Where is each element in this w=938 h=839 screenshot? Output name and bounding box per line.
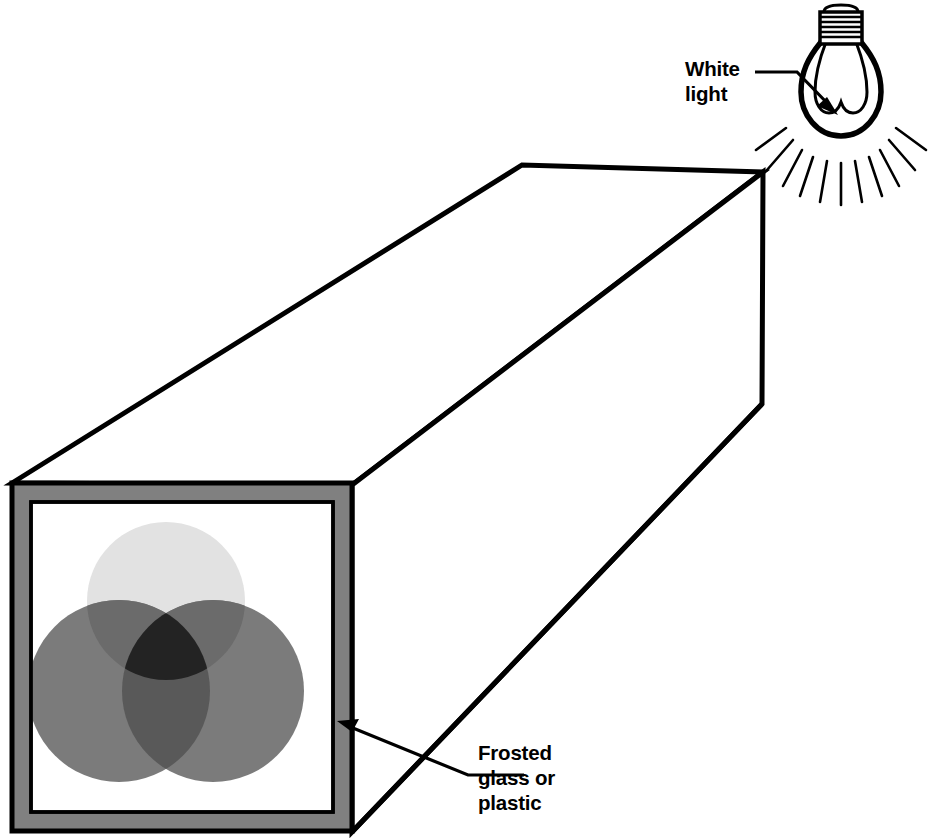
bulb-light-rays bbox=[756, 128, 926, 205]
light-box-graphic bbox=[0, 0, 938, 839]
light-bulb-icon bbox=[756, 5, 926, 205]
white-light-label: White light bbox=[685, 56, 740, 106]
frosted-glass-label: Frosted glass or plastic bbox=[478, 740, 555, 815]
diagram-canvas: White light Frosted glass or plastic bbox=[0, 0, 938, 839]
